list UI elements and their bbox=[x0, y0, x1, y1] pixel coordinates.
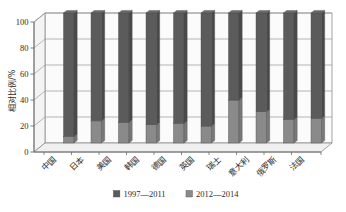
bar-segment-side bbox=[157, 122, 160, 143]
bar-segment-side bbox=[212, 10, 215, 126]
bar-segment-side bbox=[294, 10, 297, 119]
y-tick-label: 60 bbox=[20, 69, 29, 79]
plot-floor bbox=[34, 143, 332, 152]
bar-segment bbox=[64, 137, 75, 144]
bar-segment-side bbox=[239, 98, 242, 143]
bar-segment-side bbox=[239, 10, 242, 100]
bar-segment bbox=[64, 13, 75, 137]
chart-container: 020406080100 中国日本美国韩国德国英国瑞士意大利俄罗斯法国 相对比例… bbox=[0, 0, 346, 212]
bar-segment bbox=[146, 125, 157, 143]
bar-segment-side bbox=[74, 10, 77, 136]
y-tick-label: 40 bbox=[20, 95, 29, 105]
bar-segment bbox=[119, 13, 130, 122]
bar-segment-side bbox=[294, 117, 297, 143]
bar-segment bbox=[311, 118, 322, 143]
bar-segment-side bbox=[322, 116, 325, 143]
legend-label-2: 2012—2014 bbox=[196, 189, 239, 199]
legend-swatch-icon-2 bbox=[186, 191, 193, 198]
bar-segment bbox=[311, 13, 322, 118]
bar-chart: 020406080100 中国日本美国韩国德国英国瑞士意大利俄罗斯法国 相对比例… bbox=[0, 0, 346, 212]
legend-label-1: 1997—2011 bbox=[123, 189, 165, 199]
bar-segment-side bbox=[157, 10, 160, 124]
bar-segment bbox=[119, 122, 130, 143]
bar-segment bbox=[174, 124, 185, 144]
bar-segment bbox=[256, 13, 267, 112]
bar-segment bbox=[284, 120, 295, 143]
y-axis-title: 相对比例/% bbox=[7, 69, 17, 112]
bar-segment bbox=[91, 121, 102, 143]
legend-swatch-icon-1 bbox=[113, 191, 120, 198]
bar-segment-side bbox=[184, 121, 187, 143]
bar-segment bbox=[229, 100, 240, 143]
bar-segment-side bbox=[129, 120, 132, 143]
bar-segment-side bbox=[102, 118, 105, 143]
bar-segment-side bbox=[267, 109, 270, 143]
y-tick-label: 20 bbox=[20, 121, 29, 131]
bar-segment bbox=[201, 126, 212, 143]
bar-segment-side bbox=[102, 10, 105, 120]
y-tick-label: 80 bbox=[20, 43, 29, 53]
bar-segment bbox=[256, 112, 267, 143]
bar-segment bbox=[91, 13, 102, 121]
bar-segment bbox=[284, 13, 295, 120]
plot-left-wall bbox=[34, 13, 45, 152]
bar-segment-side bbox=[184, 10, 187, 123]
bar-segment bbox=[146, 13, 157, 125]
bar-segment bbox=[174, 13, 185, 124]
y-tick-label: 100 bbox=[16, 17, 29, 27]
y-tick-label: 0 bbox=[24, 147, 28, 157]
bar-segment bbox=[229, 13, 240, 100]
bar-segment bbox=[201, 13, 212, 126]
bar-segment-side bbox=[129, 10, 132, 122]
bar-segment-side bbox=[322, 10, 325, 118]
bar-segment-side bbox=[212, 124, 215, 143]
bar-segment-side bbox=[267, 10, 270, 111]
